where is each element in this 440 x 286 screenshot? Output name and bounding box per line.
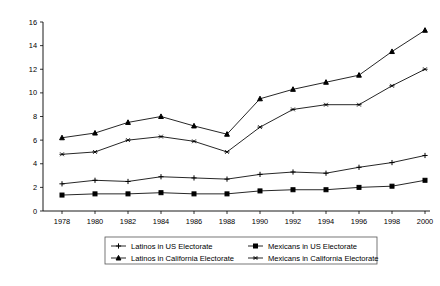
data-point-marker [258, 189, 262, 193]
data-point-marker [423, 28, 428, 33]
data-point-marker [158, 135, 163, 139]
data-point-marker [93, 130, 98, 135]
line-chart: 0246810121416 19781980198219841986198819… [0, 0, 440, 286]
chart-legend: Latinos in US ElectorateMexicans in US E… [105, 237, 379, 264]
series-line [62, 69, 425, 154]
data-point-marker [125, 179, 130, 184]
x-axis-ticks: 1978198019821984198619881990199219941996… [54, 211, 433, 226]
y-tick-label: 14 [29, 41, 37, 50]
data-point-marker [389, 160, 394, 165]
legend-item-mexicans-in-california-electorate[interactable]: Mexicans in California Electorate [248, 254, 379, 263]
data-point-marker [323, 103, 328, 107]
x-tick-label: 1984 [153, 217, 169, 226]
data-point-marker [191, 139, 196, 143]
y-tick-label: 16 [29, 18, 37, 27]
x-tick-label: 1994 [318, 217, 334, 226]
data-point-marker [158, 174, 163, 179]
x-tick-label: 1990 [252, 217, 268, 226]
data-point-marker [257, 172, 262, 177]
data-point-marker [59, 181, 64, 186]
x-tick-label: 1998 [384, 217, 400, 226]
data-point-marker [389, 84, 394, 88]
data-point-marker [290, 108, 295, 112]
data-point-marker [291, 87, 296, 92]
data-point-marker [224, 177, 229, 182]
data-point-marker [159, 191, 163, 195]
data-point-marker [254, 244, 258, 248]
y-axis-ticks: 0246810121416 [29, 18, 43, 216]
series-group [59, 28, 427, 197]
data-point-marker [92, 178, 97, 183]
x-tick-label: 1996 [351, 217, 367, 226]
data-point-marker [422, 153, 427, 158]
series-latinos-in-california-electorate [60, 28, 428, 140]
data-point-marker [357, 73, 362, 78]
series-line [62, 155, 425, 183]
data-point-marker [356, 165, 361, 170]
y-tick-label: 2 [33, 183, 37, 192]
data-point-marker [192, 192, 196, 196]
x-tick-label: 1992 [285, 217, 301, 226]
x-tick-label: 1978 [54, 217, 70, 226]
data-point-marker [356, 103, 361, 107]
data-point-marker [92, 150, 97, 154]
x-tick-label: 2000 [417, 217, 433, 226]
data-point-marker [423, 178, 427, 182]
data-point-marker [126, 120, 131, 125]
data-point-marker [258, 96, 263, 101]
data-point-marker [290, 169, 295, 174]
chart-container: 0246810121416 19781980198219841986198819… [0, 0, 440, 286]
data-point-marker [191, 175, 196, 180]
data-point-marker [59, 152, 64, 156]
x-tick-label: 1988 [219, 217, 235, 226]
data-point-marker [225, 192, 229, 196]
data-point-marker [93, 192, 97, 196]
data-point-marker [126, 192, 130, 196]
x-tick-label: 1986 [186, 217, 202, 226]
legend-label: Mexicans in California Electorate [268, 254, 379, 263]
y-tick-label: 8 [33, 112, 37, 121]
data-point-marker [224, 150, 229, 154]
data-point-marker [60, 135, 65, 140]
series-line [62, 30, 425, 137]
y-tick-label: 10 [29, 88, 37, 97]
data-point-marker [390, 184, 394, 188]
legend-label: Latinos in California Electorate [131, 254, 234, 263]
series-mexicans-in-california-electorate [59, 67, 427, 156]
y-tick-label: 4 [33, 159, 37, 168]
data-point-marker [390, 49, 395, 54]
data-point-marker [257, 125, 262, 129]
data-point-marker [60, 193, 64, 197]
series-latinos-in-us-electorate [59, 153, 427, 187]
data-point-marker [357, 185, 361, 189]
x-tick-label: 1980 [87, 217, 103, 226]
x-tick-label: 1982 [120, 217, 136, 226]
data-point-marker [125, 138, 130, 142]
series-line [62, 180, 425, 195]
y-tick-label: 6 [33, 136, 37, 145]
data-point-marker [159, 114, 164, 119]
data-point-marker [324, 80, 329, 85]
data-point-marker [291, 188, 295, 192]
data-point-marker [323, 171, 328, 176]
legend-label: Mexicans in US Electorate [268, 242, 357, 251]
data-point-marker [422, 67, 427, 71]
data-point-marker [192, 123, 197, 128]
y-tick-label: 0 [33, 207, 37, 216]
legend-label: Latinos in US Electorate [131, 242, 212, 251]
data-point-marker [324, 188, 328, 192]
y-tick-label: 12 [29, 65, 37, 74]
